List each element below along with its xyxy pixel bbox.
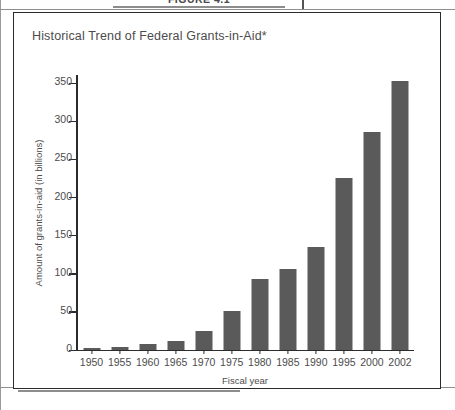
bar-slot xyxy=(330,75,358,350)
figure-caption: FIGURE 4.1 xyxy=(113,0,285,5)
bar xyxy=(279,269,296,350)
x-axis-tick-mark xyxy=(175,350,176,354)
figure-container: Historical Trend of Federal Grants-in-Ai… xyxy=(13,12,441,389)
x-axis-tick-mark xyxy=(147,350,148,354)
x-axis-tick-mark xyxy=(91,350,92,354)
bar xyxy=(195,331,212,349)
x-axis-tick-label: 1985 xyxy=(276,356,299,368)
x-axis-tick-mark xyxy=(315,350,316,354)
x-axis-tick-label: 2002 xyxy=(388,356,411,368)
x-axis-tick-mark xyxy=(203,350,204,354)
bar xyxy=(307,247,324,350)
bar-slot xyxy=(274,75,302,350)
y-axis-tick-label: 200 xyxy=(54,190,72,202)
x-axis-tick-label: 1970 xyxy=(192,356,215,368)
bar xyxy=(335,178,352,350)
bar xyxy=(251,279,268,349)
x-axis-tick-mark xyxy=(231,350,232,354)
figure-caption-underline xyxy=(113,6,285,8)
plot-area: Amount of grants-in-aid (in billions) 05… xyxy=(76,75,414,351)
page-bottom-rule-secondary xyxy=(18,390,240,392)
x-axis-tick-label: 1975 xyxy=(220,356,243,368)
y-axis-title: Amount of grants-in-aid (in billions) xyxy=(33,140,44,287)
bar-slot xyxy=(302,75,330,350)
bar-slot xyxy=(162,75,190,350)
x-axis-tick-label: 1955 xyxy=(108,356,131,368)
y-axis-tick-label: 250 xyxy=(54,151,72,163)
x-axis-tick-label: 1960 xyxy=(136,356,159,368)
x-axis-tick-mark xyxy=(399,350,400,354)
bar-slot xyxy=(386,75,414,350)
x-axis-tick-mark xyxy=(371,350,372,354)
bar-slot xyxy=(190,75,218,350)
bar-slot xyxy=(218,75,246,350)
x-axis-tick-label: 1990 xyxy=(304,356,327,368)
chart-title: Historical Trend of Federal Grants-in-Ai… xyxy=(32,29,267,43)
x-axis-tick-mark xyxy=(287,350,288,354)
bar-slot xyxy=(78,75,106,350)
page-gutter-mark xyxy=(302,0,304,9)
bar xyxy=(391,81,408,349)
x-axis-tick-label: 2000 xyxy=(360,356,383,368)
x-axis-tick-label: 1980 xyxy=(248,356,271,368)
y-axis-tick-label: 100 xyxy=(54,266,72,278)
x-axis-tick-mark xyxy=(119,350,120,354)
bar xyxy=(139,344,156,349)
x-axis-tick-label: 1950 xyxy=(80,356,103,368)
page-top-rule xyxy=(0,9,455,10)
y-axis-tick-label: 300 xyxy=(54,113,72,125)
bar-slot xyxy=(134,75,162,350)
page-left-margin-rule xyxy=(0,0,1,410)
bar-slot xyxy=(246,75,274,350)
y-axis-tick-label: 0 xyxy=(66,342,72,354)
x-axis-tick-label: 1995 xyxy=(332,356,355,368)
bar-series xyxy=(78,75,415,350)
y-axis-tick-label: 350 xyxy=(54,75,72,87)
x-axis-title: Fiscal year xyxy=(76,375,414,386)
y-axis-tick-label: 150 xyxy=(54,228,72,240)
bar xyxy=(167,341,184,349)
bar xyxy=(363,132,380,349)
x-axis-tick-mark xyxy=(259,350,260,354)
bar-slot xyxy=(106,75,134,350)
bar-slot xyxy=(358,75,386,350)
y-axis-tick-label: 50 xyxy=(60,304,72,316)
bar xyxy=(223,311,240,350)
x-axis-tick-label: 1965 xyxy=(164,356,187,368)
x-axis-line xyxy=(76,350,414,352)
x-axis-tick-mark xyxy=(343,350,344,354)
